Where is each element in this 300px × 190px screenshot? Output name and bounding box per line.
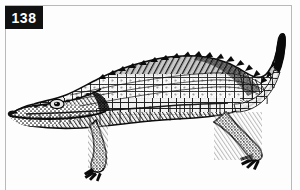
figure-plate: 138 (0, 0, 300, 190)
figure-number-tag: 138 (5, 6, 43, 29)
crocodile-illustration (0, 0, 300, 190)
figure-number-label: 138 (12, 10, 37, 26)
